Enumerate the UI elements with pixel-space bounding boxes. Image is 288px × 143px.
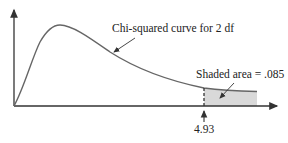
- shaded-area-label: Shaded area = .085: [196, 68, 284, 80]
- curve-label: Chi-squared curve for 2 df: [112, 22, 234, 35]
- curve-label-arrow: [114, 38, 135, 52]
- critical-value-label: 4.93: [194, 123, 214, 135]
- chi-squared-chart: Chi-squared curve for 2 df Shaded area =…: [0, 0, 288, 143]
